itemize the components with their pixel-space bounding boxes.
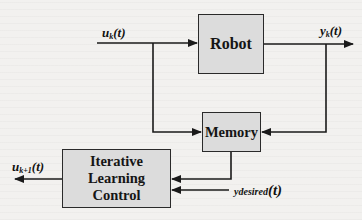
ilc-label-line-2: Learning — [88, 170, 145, 187]
robot-label: Robot — [210, 35, 252, 53]
signal-yk-label: yk(t) — [320, 24, 342, 39]
arrow-yk-to-memory — [262, 44, 326, 132]
ilc-label-line-3: Control — [92, 187, 140, 204]
signal-ydesired-label: ydesired(t) — [234, 183, 282, 198]
connector-lines — [0, 0, 362, 220]
arrow-uk-to-memory — [153, 43, 201, 132]
robot-block: Robot — [198, 14, 264, 74]
ydesired-arg: (t) — [268, 182, 282, 198]
uk-arg: (t) — [113, 25, 125, 40]
arrow-memory-to-ilc — [172, 152, 231, 179]
ilc-block: Iterative Learning Control — [62, 149, 171, 208]
memory-block: Memory — [202, 112, 261, 152]
signal-uk1-label: uk+1(t) — [12, 160, 44, 175]
ydesired-sub: desired — [238, 186, 267, 197]
uk1-arg: (t) — [32, 159, 44, 174]
memory-label: Memory — [205, 124, 258, 141]
ilc-label-line-1: Iterative — [90, 153, 143, 170]
yk-arg: (t) — [330, 23, 342, 38]
signal-uk-label: uk(t) — [102, 26, 126, 41]
uk1-sub: k+1 — [19, 166, 32, 175]
